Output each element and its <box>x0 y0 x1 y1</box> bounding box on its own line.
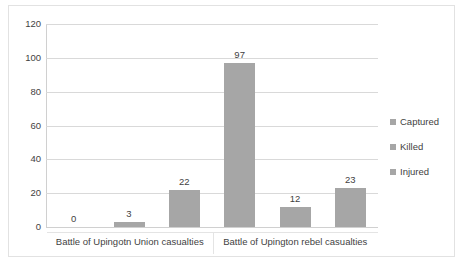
y-axis-tick-label: 100 <box>25 53 41 63</box>
category-divider <box>213 232 214 254</box>
y-axis-tick-label: 60 <box>30 121 41 131</box>
bar-value-label: 23 <box>345 175 356 185</box>
category-axis-labels: Battle of Upingotn Union casualtiesBattl… <box>47 232 378 254</box>
bar-value-label: 3 <box>126 209 131 219</box>
gridline <box>46 159 378 160</box>
legend-item-injured[interactable]: Injured <box>390 159 450 184</box>
bar[interactable] <box>280 207 311 227</box>
plot-area: 0204060801001200322971223 <box>46 24 378 227</box>
chart-container: 0204060801001200322971223 Battle of Upin… <box>8 5 455 257</box>
chart-legend: Captured Killed Injured <box>390 109 450 184</box>
y-axis-tick-label: 0 <box>36 222 41 232</box>
legend-swatch-icon <box>390 169 396 175</box>
bar-value-label: 22 <box>179 177 190 187</box>
category-label: Battle of Upingotn Union casualties <box>47 237 213 247</box>
gridline <box>46 24 378 25</box>
category-label: Battle of Upington rebel casualties <box>213 237 379 247</box>
bar[interactable] <box>335 188 366 227</box>
gridline <box>46 126 378 127</box>
bar-value-label: 0 <box>71 214 76 224</box>
bar[interactable] <box>169 190 200 227</box>
y-axis-tick-label: 20 <box>30 188 41 198</box>
legend-label: Captured <box>400 117 439 127</box>
legend-swatch-icon <box>390 144 396 150</box>
bar[interactable] <box>114 222 145 227</box>
y-axis-tick-label: 40 <box>30 155 41 165</box>
legend-item-captured[interactable]: Captured <box>390 109 450 134</box>
legend-swatch-icon <box>390 119 396 125</box>
bar-value-label: 12 <box>290 194 301 204</box>
y-axis-tick-label: 120 <box>25 19 41 29</box>
gridline <box>46 92 378 93</box>
gridline <box>46 227 378 228</box>
gridline <box>46 58 378 59</box>
legend-item-killed[interactable]: Killed <box>390 134 450 159</box>
legend-label: Killed <box>400 142 423 152</box>
y-axis-tick-label: 80 <box>30 87 41 97</box>
gridline <box>46 193 378 194</box>
bar-value-label: 97 <box>234 50 245 60</box>
bar[interactable] <box>224 63 255 227</box>
legend-label: Injured <box>400 167 429 177</box>
